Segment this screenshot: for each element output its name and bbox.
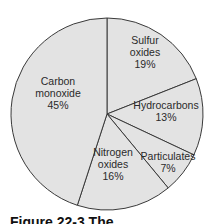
pie-chart: Sulfuroxides19%Hydrocarbons13%Particulat… bbox=[0, 0, 215, 224]
figure-caption: Figure 22-3 The ... bbox=[10, 215, 129, 224]
